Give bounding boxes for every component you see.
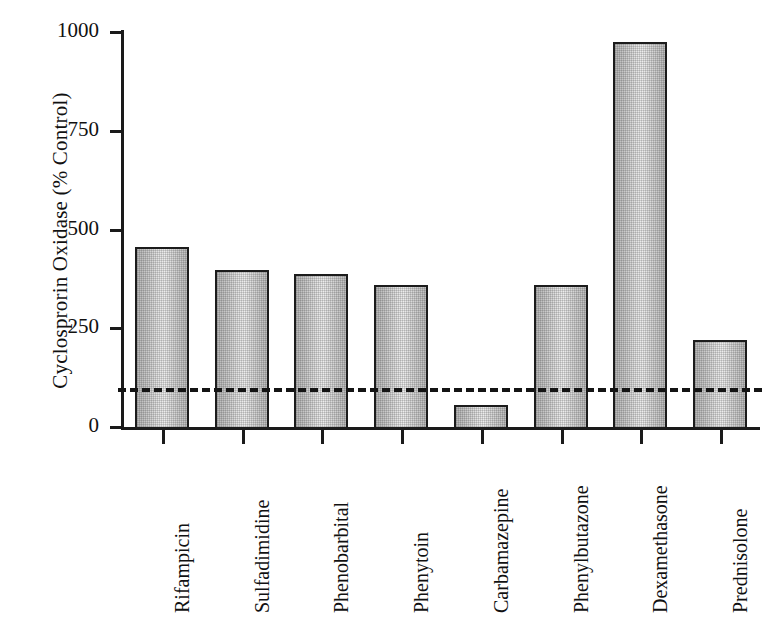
y-tick-1000 — [110, 31, 121, 34]
x-label-sulfadimidine: Sulfadimidine — [251, 500, 274, 613]
y-tick-label-text: 750 — [68, 117, 100, 142]
bar-dexamethasone — [613, 42, 667, 429]
bar-chart-figure: Cyclosprorin Oxidase (% Control) 0250500… — [0, 0, 764, 632]
bar-carbamazepine — [454, 405, 508, 429]
plot-area: 02505007501000 RifampicinSulfadimidinePh… — [0, 0, 764, 632]
y-tick-label-text: 500 — [68, 216, 100, 241]
x-label-phenobarbital: Phenobarbital — [330, 502, 353, 613]
x-label-dexamethasone: Dexamethasone — [649, 485, 672, 613]
x-label-rifampicin: Rifampicin — [171, 523, 194, 613]
x-tick-phenytoin — [401, 430, 404, 444]
x-tick-phenobarbital — [321, 430, 324, 444]
x-label-phenytoin: Phenytoin — [410, 532, 433, 613]
x-tick-rifampicin — [162, 430, 165, 444]
x-tick-sulfadimidine — [242, 430, 245, 444]
y-axis-line — [121, 30, 124, 429]
x-tick-phenylbutazone — [561, 430, 564, 444]
x-tick-carbamazepine — [481, 430, 484, 444]
x-label-carbamazepine: Carbamazepine — [490, 489, 513, 613]
y-tick-500 — [110, 229, 121, 232]
bar-phenylbutazone — [534, 285, 588, 429]
y-tick-label-text: 1000 — [57, 18, 99, 43]
y-tick-750 — [110, 130, 121, 133]
bar-prednisolone — [693, 340, 747, 429]
y-tick-250 — [110, 327, 121, 330]
x-label-phenylbutazone: Phenylbutazone — [570, 485, 593, 613]
bar-sulfadimidine — [215, 270, 269, 429]
bar-rifampicin — [135, 247, 189, 429]
x-label-prednisolone: Prednisolone — [729, 509, 752, 613]
x-tick-prednisolone — [720, 430, 723, 444]
control-reference-line — [118, 388, 762, 392]
y-tick-label-text: 0 — [89, 413, 100, 438]
y-tick-0 — [110, 426, 121, 429]
x-tick-dexamethasone — [640, 430, 643, 444]
bar-phenobarbital — [294, 274, 348, 429]
bar-phenytoin — [374, 285, 428, 429]
y-tick-label-text: 250 — [68, 314, 100, 339]
